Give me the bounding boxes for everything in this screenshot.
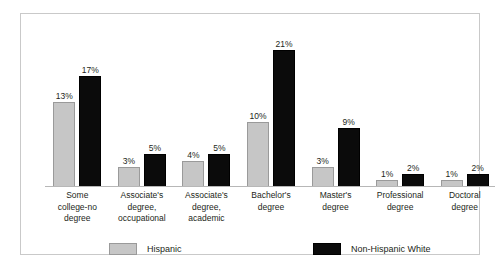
chart-frame: 13%17%3%5%4%5%10%21%3%9%1%2%1%2% Somecol… [20, 13, 480, 255]
bar-nhwhite: 5% [144, 154, 166, 187]
legend-item-non-hispanic-white: Non-Hispanic White [313, 242, 431, 256]
bar-value-label: 2% [472, 163, 484, 173]
x-tick-label-line: degree [368, 202, 433, 214]
bar-hispanic: 3% [312, 167, 334, 187]
x-tick-label-line: Bachelor's [239, 190, 304, 202]
bar-value-label: 10% [249, 111, 266, 121]
bar-value-label: 21% [275, 39, 292, 49]
bar-value-label: 1% [446, 169, 458, 179]
x-tick-label-line: Associate's [174, 190, 239, 202]
plot-area: 13%17%3%5%4%5%10%21%3%9%1%2%1%2% [45, 30, 497, 187]
x-tick-label: Associate'sdegree,occupational [110, 190, 175, 225]
bar-value-label: 2% [407, 163, 419, 173]
x-tick-label-line: degree [303, 202, 368, 214]
bar-nhwhite: 17% [79, 76, 101, 187]
bar-value-label: 4% [187, 150, 199, 160]
x-tick-label-line: Doctoral [432, 190, 497, 202]
x-tick-label-line: college-no [45, 202, 110, 214]
legend-item-hispanic: Hispanic [109, 242, 182, 256]
x-tick-label-line: Professional [368, 190, 433, 202]
x-tick-label-line: degree [239, 202, 304, 214]
x-tick-label-line: degree, [174, 202, 239, 214]
bar-hispanic: 10% [247, 122, 269, 187]
bar-value-label: 3% [123, 156, 135, 166]
figure: 13%17%3%5%4%5%10%21%3%9%1%2%1%2% Somecol… [0, 0, 501, 271]
bar-group: 4%5% [182, 30, 230, 187]
bar-value-label: 17% [82, 65, 99, 75]
x-tick-label-line: Associate's [110, 190, 175, 202]
x-tick-label-line: Master's [303, 190, 368, 202]
bar-hispanic: 3% [118, 167, 140, 187]
bar-value-label: 9% [342, 117, 354, 127]
bar-value-label: 1% [381, 169, 393, 179]
bar-nhwhite: 5% [208, 154, 230, 187]
bar-group: 3%9% [312, 30, 360, 187]
bar-group: 10%21% [247, 30, 295, 187]
legend-label-non-hispanic-white: Non-Hispanic White [351, 243, 431, 255]
bar-group: 3%5% [118, 30, 166, 187]
legend-label-hispanic: Hispanic [147, 243, 182, 255]
bar-group: 13%17% [53, 30, 101, 187]
bar-value-label: 3% [316, 156, 328, 166]
x-tick-label-line: degree, [110, 202, 175, 214]
bar-group: 1%2% [376, 30, 424, 187]
x-axis-tick-labels: Somecollege-nodegreeAssociate'sdegree,oc… [45, 190, 497, 232]
legend-swatch-icon-non-hispanic-white [313, 243, 341, 255]
x-tick-label: Somecollege-nodegree [45, 190, 110, 225]
x-tick-label-line: occupational [110, 213, 175, 225]
bar-group: 1%2% [441, 30, 489, 187]
x-axis-baseline [45, 186, 495, 187]
x-tick-label-line: Some [45, 190, 110, 202]
bar-hispanic: 4% [182, 161, 204, 187]
bar-value-label: 5% [149, 143, 161, 153]
legend-swatch-icon-hispanic [109, 243, 137, 255]
bar-nhwhite: 9% [338, 128, 360, 187]
bar-nhwhite: 21% [273, 50, 295, 187]
bar-value-label: 13% [56, 91, 73, 101]
x-tick-label-line: degree [432, 202, 497, 214]
x-tick-label: Professionaldegree [368, 190, 433, 213]
x-tick-label-line: academic [174, 213, 239, 225]
bar-value-label: 5% [213, 143, 225, 153]
bar-hispanic: 13% [53, 102, 75, 187]
x-tick-label-line: degree [45, 213, 110, 225]
chart-legend: Hispanic Non-Hispanic White [45, 242, 497, 258]
x-tick-label: Bachelor'sdegree [239, 190, 304, 213]
x-tick-label: Doctoraldegree [432, 190, 497, 213]
x-tick-label: Master'sdegree [303, 190, 368, 213]
x-tick-label: Associate'sdegree,academic [174, 190, 239, 225]
